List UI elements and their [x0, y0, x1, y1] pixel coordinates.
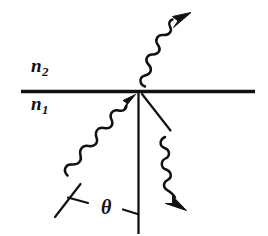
reflected-wave-path: [161, 137, 175, 198]
diagram-canvas: [0, 0, 268, 236]
medium-subscript-upper: 2: [42, 64, 49, 79]
angle-label-theta: θ: [101, 197, 111, 217]
angle-tick-right: [123, 210, 138, 215]
medium-symbol-upper: n: [31, 55, 42, 76]
refraction-figure: n2 n1 θ: [0, 0, 268, 236]
medium-subscript-lower: 1: [42, 102, 49, 117]
medium-label-upper: n2: [31, 56, 49, 78]
incident-wave-path: [65, 106, 127, 176]
angle-tick-left: [55, 184, 88, 217]
incident-wave-arrowhead: [123, 95, 136, 109]
transmitted-wave-arrowhead: [173, 13, 192, 28]
medium-symbol-lower: n: [31, 93, 42, 114]
reflected-wave: [161, 137, 187, 211]
reflection-ray-guide: [142, 94, 171, 131]
medium-label-lower: n1: [31, 94, 49, 116]
incident-wave: [65, 95, 136, 176]
transmitted-wave-path: [141, 20, 173, 87]
angle-tick-left-cross: [68, 198, 88, 204]
transmitted-wave: [141, 13, 192, 87]
